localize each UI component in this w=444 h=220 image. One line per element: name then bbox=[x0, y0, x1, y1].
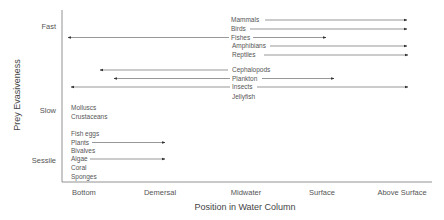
y-tick-fast: Fast bbox=[41, 22, 57, 31]
label-fishes: Fishes bbox=[231, 34, 251, 41]
label-reptiles: Reptiles bbox=[232, 51, 256, 59]
label-molluscs: Molluscs bbox=[71, 104, 97, 111]
label-plants: Plants bbox=[71, 139, 90, 146]
label-sponges: Sponges bbox=[71, 173, 97, 181]
label-insects: Insects bbox=[232, 83, 253, 90]
x-axis-title: Position in Water Column bbox=[194, 202, 295, 212]
label-bivalves: Bivalves bbox=[71, 147, 96, 154]
label-cephalopods: Cephalopods bbox=[232, 66, 271, 74]
x-tick-above-surface: Above Surface bbox=[377, 188, 426, 197]
diagram-canvas: Prey Evasiveness Fast Slow Sessile Botto… bbox=[0, 0, 444, 220]
label-fish-eggs: Fish eggs bbox=[71, 130, 100, 138]
y-axis-title: Prey Evasiveness bbox=[12, 59, 22, 131]
label-coral: Coral bbox=[71, 164, 87, 171]
label-mammals: Mammals bbox=[231, 16, 260, 23]
label-crustaceans: Crustaceans bbox=[71, 113, 108, 120]
x-tick-midwater: Midwater bbox=[231, 188, 262, 197]
label-jellyfish: Jellyfish bbox=[232, 93, 256, 101]
y-tick-sessile: Sessile bbox=[32, 156, 56, 165]
x-tick-bottom: Bottom bbox=[72, 188, 96, 197]
x-tick-surface: Surface bbox=[309, 188, 335, 197]
label-algae: Algae bbox=[71, 155, 88, 163]
label-plankton: Plankton bbox=[232, 75, 258, 82]
x-tick-demersal: Demersal bbox=[144, 188, 176, 197]
y-tick-slow: Slow bbox=[40, 106, 57, 115]
label-amphibians: Amphibians bbox=[232, 42, 267, 50]
label-birds: Birds bbox=[231, 25, 247, 32]
